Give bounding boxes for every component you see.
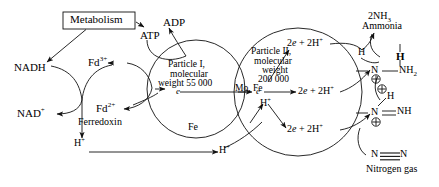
nad-plus-text: NAD — [17, 107, 41, 119]
fd-reduced-charge: 2+ — [108, 101, 115, 109]
fd-oxidised-label: Fd3+ — [88, 57, 107, 68]
nitrogen-right-label: N — [400, 149, 407, 159]
reduction-step-upper-charge: + — [319, 36, 323, 43]
particle-one-line3: weight 55 000 — [158, 79, 212, 89]
curve-n2-to-diazene — [358, 128, 366, 155]
reduction-step-lower-charge: + — [319, 122, 323, 129]
reduction-step-middle-charge: + — [330, 84, 334, 91]
reduction-step-lower-text: 2e + 2H — [287, 123, 319, 134]
reduction-step-upper-text: 2e + 2H — [287, 37, 319, 48]
arrow-metabolism-to-nadh — [47, 30, 86, 63]
curve-fd3-right — [127, 63, 152, 88]
reduction-step-middle-text: 2e + 2H — [298, 85, 330, 96]
ferredoxin-caption: Ferredoxin — [78, 117, 122, 127]
hydrazido-nh2-subscript: 2 — [413, 70, 417, 78]
reduction-step-middle: 2e + 2H+ — [298, 86, 334, 96]
internal-proton-charge: + — [267, 96, 271, 103]
fd-oxidised-charge: 3+ — [100, 55, 107, 63]
nitrogen-left-label: N — [371, 149, 378, 159]
hydrazido-h-label: H — [358, 47, 365, 57]
nadh-label: NADH — [14, 62, 46, 73]
fd-reduced-text: Fd — [96, 102, 108, 114]
nitrogen-gas-name: Nitrogen gas — [366, 164, 417, 174]
link-fd2-to-particle-one — [133, 93, 158, 105]
curve-h-to-n-hydrazido — [361, 58, 379, 63]
hydrazido-upper-h-label: H — [396, 51, 405, 62]
arrow-middle-to-hydrazido — [340, 70, 370, 92]
diazene-h-label: H — [387, 91, 394, 101]
arrow-metabolism-to-atp — [136, 22, 144, 27]
nad-plus-label: NAD+ — [17, 108, 45, 119]
atp-label: ATP — [140, 30, 160, 41]
internal-proton-label: H+ — [260, 98, 271, 108]
fd-reduced-label: Fd2+ — [96, 103, 115, 114]
diazene-nh-label: NH — [397, 106, 411, 116]
reduction-step-lower: 2e + 2H+ — [287, 124, 323, 134]
bottom-left-proton-charge: + — [81, 136, 85, 143]
particle-one-electron: e — [176, 87, 180, 96]
particle-one-metal: Fe — [188, 122, 198, 132]
curve-nadh-to-junction — [51, 66, 82, 100]
particle-two-electron: e — [256, 87, 260, 96]
particle-two-line4: 200 000 — [258, 75, 289, 85]
bottom-left-proton: H+ — [74, 138, 85, 148]
curve-junction-to-fd3 — [82, 65, 112, 100]
reduction-step-upper: 2e + 2H+ — [287, 38, 323, 48]
fd-oxidised-text: Fd — [88, 56, 100, 68]
ammonia-name: Ammonia — [362, 21, 402, 31]
bottom-mid-proton: H+ — [219, 145, 230, 155]
diazene-n-label: N — [371, 107, 378, 117]
nad-plus-charge: + — [41, 106, 45, 114]
hydrazido-nh2-text: NH — [399, 64, 413, 75]
bottom-mid-proton-charge: + — [226, 143, 230, 150]
arrow-junction-to-nad — [57, 100, 82, 114]
nitrogen-fixation-diagram: Metabolism ATP ADP NADH NAD+ Fd3+ Fd2+ F… — [0, 0, 439, 187]
adp-label: ADP — [163, 17, 185, 28]
hydrazido-nh2-label: NH2 — [399, 65, 417, 78]
metabolism-label: Metabolism — [70, 14, 123, 25]
hydrazido-n-label: N — [371, 65, 378, 75]
